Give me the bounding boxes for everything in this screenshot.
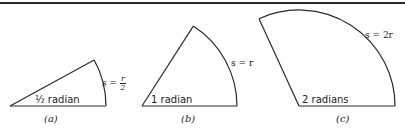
arc-label-c: s = 2r	[365, 30, 393, 40]
sectors-diagram	[0, 0, 405, 129]
arc-label-a-eq: =	[110, 78, 118, 88]
arc-label-a: s = r 2	[102, 75, 126, 92]
arc-label-b: s = r	[231, 58, 253, 68]
caption-b: (b)	[181, 113, 195, 124]
caption-c: (c)	[336, 113, 349, 124]
sector-c	[259, 10, 395, 106]
angle-label-a: ½ radian	[35, 95, 80, 105]
angle-label-c: 2 radians	[302, 95, 349, 105]
arc-label-a-fraction: r 2	[120, 75, 126, 92]
arc-label-a-lhs: s	[102, 78, 107, 88]
angle-label-b: 1 radian	[151, 95, 192, 105]
arc-label-a-denominator: 2	[120, 84, 126, 92]
caption-a: (a)	[44, 113, 58, 124]
